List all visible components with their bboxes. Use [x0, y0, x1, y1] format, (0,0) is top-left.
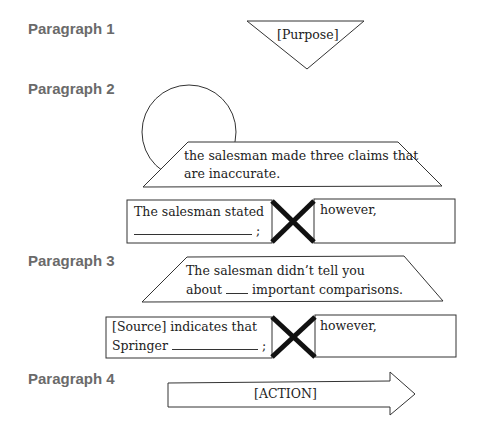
semicolon: ; — [262, 338, 266, 353]
left-box-1-line-1: The salesman stated — [134, 202, 264, 222]
trapezoid-1-line-1: the salesman made three claims that — [184, 146, 418, 166]
fill-in-blank — [226, 281, 248, 294]
trapezoid-2-rest: important comparisons. — [252, 282, 403, 297]
paragraph-3-label: Paragraph 3 — [28, 252, 115, 269]
semicolon: ; — [256, 223, 260, 238]
right-box-1-line-1: however, — [320, 200, 377, 220]
cross-icon-1 — [272, 201, 314, 242]
trapezoid-1-line-2: are inaccurate. — [184, 164, 280, 184]
right-box-2-line-1: however, — [320, 316, 377, 336]
paragraph-4-label: Paragraph 4 — [28, 370, 115, 387]
fill-in-blank — [134, 222, 252, 235]
cross-icon-2 — [272, 317, 315, 357]
action-text: [ACTION] — [254, 384, 317, 404]
purpose-text: [Purpose] — [277, 25, 339, 45]
essay-structure-diagram: Paragraph 1 Paragraph 2 Paragraph 3 Para… — [0, 0, 480, 442]
fill-in-blank — [172, 337, 258, 350]
left-box-2-line-1: [Source] indicates that — [112, 317, 257, 337]
left-box-2-line-2: Springer ; — [112, 336, 266, 356]
trapezoid-2-line-1: The salesman didn’t tell you — [186, 261, 365, 281]
springer-text: Springer — [112, 338, 168, 353]
paragraph-2-label: Paragraph 2 — [28, 80, 115, 97]
trapezoid-2-line-2: about important comparisons. — [186, 280, 403, 300]
left-box-1-line-2: ; — [134, 221, 260, 241]
trapezoid-2-about: about — [186, 282, 222, 297]
paragraph-1-label: Paragraph 1 — [28, 20, 115, 37]
